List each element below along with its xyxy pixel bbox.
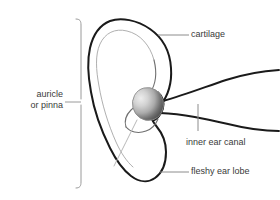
head-profile-upper-line [163,70,279,101]
label-auricle-line-1: auricle [0,89,63,100]
ear-anatomy-diagram: cartilage inner ear canal fleshy ear lob… [0,0,280,200]
label-fleshy-ear-lobe: fleshy ear lobe [191,166,250,177]
label-auricle-line-2: or pinna [0,100,63,111]
auricle-bracket [76,19,81,188]
ear-canal-opening [129,84,167,124]
label-inner-ear-canal: inner ear canal [186,137,246,148]
label-auricle-or-pinna: auricle or pinna [0,89,63,111]
head-profile-lower-line [160,113,279,131]
label-cartilage: cartilage [191,29,225,40]
